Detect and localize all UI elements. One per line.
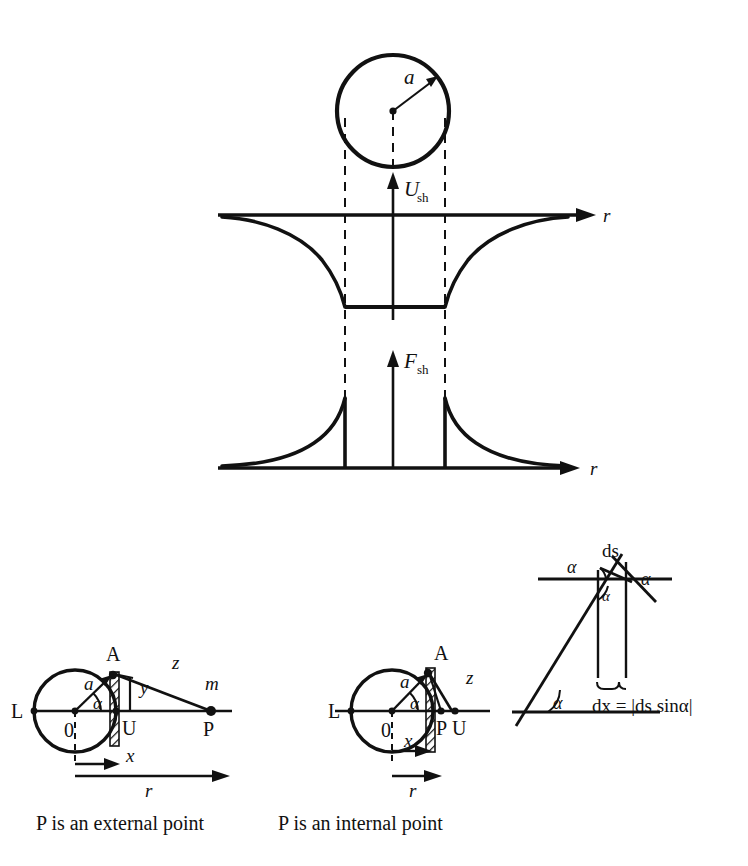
external-A-dot [109, 671, 117, 679]
internal-label-L: L [328, 700, 340, 722]
external-label-y: y [138, 677, 149, 698]
physics-figure: a r U sh r F sh [0, 0, 748, 866]
diff-label-alpha-inner: α [602, 588, 611, 604]
external-z-line [114, 674, 211, 711]
diff-label-relation: dx = |ds sinα| [592, 695, 693, 716]
internal-label-x: x [403, 730, 413, 751]
internal-label-U: U [452, 717, 467, 739]
external-label-alpha: α [93, 694, 103, 713]
external-center-dot [72, 708, 79, 715]
internal-label-r: r [409, 780, 417, 801]
external-r-arrowhead [212, 770, 230, 782]
diff-label-alpha-lower: α [553, 693, 563, 713]
internal-point-diagram: L 0 A a α P U z x r P is an internal poi… [278, 642, 490, 835]
force-plot: r F sh [218, 349, 598, 479]
external-P-dot [206, 706, 216, 716]
internal-r-arrowhead [424, 770, 442, 782]
external-L-dot [31, 708, 38, 715]
internal-label-z: z [465, 667, 474, 688]
internal-P-dot [437, 707, 444, 714]
force-f-arrowhead [387, 350, 399, 367]
internal-L-dot [348, 708, 355, 715]
internal-label-alpha: α [410, 694, 420, 713]
external-label-L: L [11, 700, 23, 722]
potential-curve-right [445, 217, 568, 307]
internal-label-P: P [436, 717, 447, 739]
internal-center-dot [389, 708, 396, 715]
potential-r-label: r [603, 205, 611, 226]
figure-canvas: a r U sh r F sh [0, 0, 748, 866]
diff-label-alpha-right: α [641, 569, 651, 589]
external-point-diagram: L 0 A a α U y z m P x r P is an external… [11, 643, 232, 835]
differential-relation-diagram: α α α α ds dx = |ds sinα| [512, 540, 693, 726]
internal-U-dot [451, 707, 458, 714]
potential-axis-label-sub: sh [417, 190, 429, 205]
external-label-a: a [84, 673, 94, 694]
force-curve-left [222, 398, 345, 466]
internal-A-dot [424, 669, 432, 677]
internal-caption: P is an internal point [278, 812, 443, 835]
force-r-arrowhead [560, 461, 580, 475]
diff-label-alpha-upper-left: α [567, 557, 577, 577]
potential-curve-left [222, 217, 345, 307]
external-label-m: m [205, 673, 219, 694]
external-label-P: P [203, 718, 214, 740]
external-label-A: A [106, 643, 121, 665]
diff-dx-brace [597, 682, 626, 689]
force-axis-label: F [403, 349, 417, 373]
potential-plot: r U sh [218, 172, 611, 320]
diff-label-ds: ds [602, 540, 619, 561]
external-label-U: U [122, 717, 137, 739]
radius-label: a [404, 65, 415, 89]
internal-label-a: a [400, 671, 410, 692]
external-caption: P is an external point [36, 812, 205, 835]
external-x-arrowhead [104, 758, 120, 770]
potential-r-arrowhead [576, 208, 596, 222]
external-U-dot [113, 708, 120, 715]
force-curve-right [445, 398, 566, 466]
internal-label-A: A [434, 642, 449, 664]
force-r-label: r [590, 458, 598, 479]
internal-label-center: 0 [381, 719, 391, 741]
force-axis-label-sub: sh [417, 362, 429, 377]
external-label-r: r [145, 780, 153, 801]
external-label-x: x [125, 745, 135, 766]
external-label-center: 0 [64, 719, 74, 741]
dashed-guides-group [345, 111, 445, 455]
potential-u-arrowhead [387, 172, 399, 189]
external-label-z: z [171, 652, 180, 673]
